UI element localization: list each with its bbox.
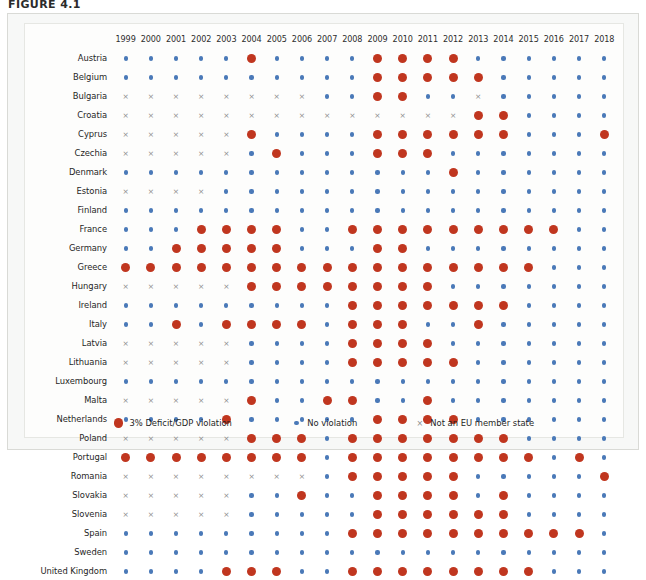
cell-violation <box>340 257 365 276</box>
cell-no-violation <box>541 238 566 257</box>
no-violation-dot-icon <box>350 151 354 155</box>
cell-violation <box>365 124 390 143</box>
cell-no-violation <box>440 390 465 409</box>
not-member-cross-icon: × <box>122 358 129 367</box>
cell-violation <box>516 257 541 276</box>
cell-violation <box>390 466 415 485</box>
cell-violation <box>491 561 516 580</box>
violation-dot-icon <box>423 73 432 82</box>
cell-no-violation <box>516 542 541 561</box>
cell-violation <box>516 523 541 542</box>
no-violation-dot-icon <box>249 360 253 364</box>
no-violation-dot-icon <box>602 208 606 212</box>
matrix-row: Croatia×××××××××××××× <box>33 105 617 124</box>
cell-no-violation <box>592 200 617 219</box>
violation-dot-icon <box>474 301 483 310</box>
cell-no-violation <box>264 67 289 86</box>
not-member-cross-icon: × <box>173 396 180 405</box>
violation-dot-icon <box>575 529 584 538</box>
cell-no-violation <box>516 86 541 105</box>
no-violation-dot-icon <box>577 246 581 250</box>
violation-dot-icon <box>146 453 155 462</box>
cell-no-violation <box>214 542 239 561</box>
not-member-cross-icon: × <box>173 149 180 158</box>
cell-no-violation <box>440 276 465 295</box>
no-violation-dot-icon <box>552 75 556 79</box>
cell-no-violation <box>289 371 314 390</box>
cell-no-violation <box>541 447 566 466</box>
violation-dot-icon <box>222 453 231 462</box>
cell-no-violation <box>340 200 365 219</box>
cell-no-violation <box>566 238 591 257</box>
violation-dot-icon <box>549 529 558 538</box>
cell-no-violation <box>138 200 163 219</box>
violation-dot-icon <box>373 529 382 538</box>
cell-violation <box>340 447 365 466</box>
not-member-cross-icon: × <box>198 339 205 348</box>
no-violation-dot-icon <box>552 189 556 193</box>
no-violation-dot-icon <box>199 322 203 326</box>
cell-no-violation <box>289 390 314 409</box>
cell-no-violation <box>516 428 541 447</box>
cell-not-member: × <box>390 105 415 124</box>
no-violation-dot-icon <box>249 379 253 383</box>
violation-dot-icon <box>398 92 407 101</box>
country-label: Luxembourg <box>33 371 113 390</box>
no-violation-dot-icon <box>577 189 581 193</box>
cell-no-violation <box>516 105 541 124</box>
violation-dot-icon <box>474 510 483 519</box>
cell-no-violation <box>113 295 138 314</box>
no-violation-dot-icon <box>300 341 304 345</box>
not-member-cross-icon: × <box>147 282 154 291</box>
cell-violation <box>466 124 491 143</box>
violation-dot-icon <box>247 244 256 253</box>
no-violation-dot-icon <box>300 512 304 516</box>
cell-not-member: × <box>113 390 138 409</box>
violation-dot-icon <box>373 263 382 272</box>
no-violation-dot-icon <box>325 379 329 383</box>
no-violation-dot-icon <box>426 379 430 383</box>
matrix-row: Luxembourg <box>33 371 617 390</box>
no-violation-dot-icon <box>174 531 178 535</box>
no-violation-dot-icon <box>577 550 581 554</box>
cell-violation <box>415 276 440 295</box>
cell-violation <box>541 523 566 542</box>
cell-not-member: × <box>264 105 289 124</box>
cell-no-violation <box>264 504 289 523</box>
violation-dot-icon <box>398 149 407 158</box>
no-violation-dot-icon <box>375 550 379 554</box>
violation-dot-icon <box>423 54 432 63</box>
no-violation-dot-icon <box>401 379 405 383</box>
not-member-cross-icon: × <box>248 92 255 101</box>
violation-dot-icon <box>272 263 281 272</box>
no-violation-dot-icon <box>249 75 253 79</box>
cell-no-violation <box>592 542 617 561</box>
matrix-row: Greece <box>33 257 617 276</box>
not-member-cross-icon: × <box>298 472 305 481</box>
no-violation-dot-icon <box>527 360 531 364</box>
no-violation-dot-icon <box>375 189 379 193</box>
no-violation-dot-icon <box>199 75 203 79</box>
matrix-row: Romania×××××××× <box>33 466 617 485</box>
deficit-violation-matrix: 1999200020012002200320042005200620072008… <box>33 32 617 580</box>
no-violation-dot-icon <box>300 208 304 212</box>
violation-dot-icon <box>449 358 458 367</box>
cell-no-violation <box>163 200 188 219</box>
cell-no-violation <box>592 162 617 181</box>
cell-no-violation <box>289 523 314 542</box>
cell-no-violation <box>113 523 138 542</box>
cell-no-violation <box>214 371 239 390</box>
cell-not-member: × <box>138 181 163 200</box>
cell-no-violation <box>315 485 340 504</box>
violation-dot-icon <box>348 263 357 272</box>
no-violation-dot-icon <box>300 398 304 402</box>
no-violation-dot-icon <box>350 189 354 193</box>
cell-no-violation <box>466 200 491 219</box>
no-violation-dot-icon <box>350 246 354 250</box>
violation-dot-icon <box>398 244 407 253</box>
cell-not-member: × <box>189 390 214 409</box>
cell-violation <box>390 219 415 238</box>
header-corner-spacer <box>33 32 113 48</box>
cell-no-violation <box>541 124 566 143</box>
cell-no-violation <box>289 238 314 257</box>
